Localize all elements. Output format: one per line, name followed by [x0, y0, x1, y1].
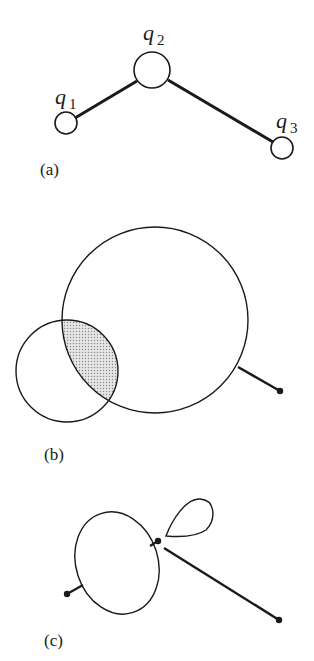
teardrop-loop: [166, 499, 213, 537]
caption-b: (b): [44, 445, 64, 464]
label-q3: q3: [276, 108, 298, 136]
endpoint-dot-b: [277, 388, 283, 394]
node-q3: [271, 137, 293, 159]
link-c: [164, 548, 279, 620]
node-q1: [55, 112, 77, 134]
label-q1: q1: [55, 84, 77, 112]
endpoint-dot-middle: [155, 538, 161, 544]
caption-a: (a): [40, 160, 59, 179]
panel-b: (b): [16, 227, 283, 464]
caption-c: (c): [44, 631, 63, 650]
panel-a: q1 q2 q3 (a): [40, 20, 298, 179]
ellipse: [62, 501, 172, 625]
link-q2-q3: [168, 80, 273, 142]
link-q1-q2: [75, 81, 137, 118]
endpoint-dot-left: [64, 591, 70, 597]
label-q2: q2: [143, 20, 165, 48]
node-q2: [134, 52, 170, 88]
link-b: [238, 367, 280, 391]
panel-c: (c): [44, 499, 282, 650]
intersection-shading: [62, 227, 248, 413]
figure-canvas: q1 q2 q3 (a) (b) (c): [0, 0, 314, 661]
endpoint-dot-right: [276, 617, 282, 623]
